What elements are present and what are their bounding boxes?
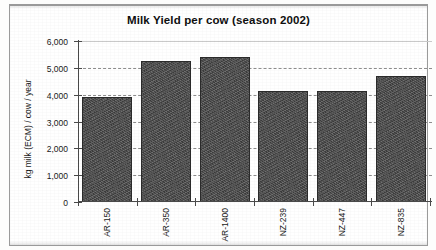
y-axis-tick: 5,000 (74, 68, 82, 69)
x-axis-label: AR-350 (161, 208, 171, 237)
bar-slot (195, 41, 254, 202)
y-axis-tick: 3,000 (74, 122, 82, 123)
y-axis-tick-label: 4,000 (47, 91, 68, 101)
y-axis-tick-label: 0 (63, 198, 68, 208)
bar-slot (313, 41, 372, 202)
x-axis-label-slot: NZ-835 (371, 206, 430, 250)
x-axis-tick (313, 198, 314, 206)
chart-title: Milk Yield per cow (season 2002) (10, 14, 427, 26)
x-axis-label: AR-1400 (220, 208, 230, 242)
y-axis-tick-label: 1,000 (47, 171, 68, 181)
bar-slot (371, 41, 430, 202)
scan-edge-top (10, 6, 427, 9)
plot-area: 01,0002,0003,0004,0005,0006,000 (78, 41, 430, 202)
bar-slot (78, 41, 137, 202)
bars-group (78, 41, 430, 202)
x-axis-tick (254, 198, 255, 206)
x-axis-label: NZ-835 (396, 208, 406, 236)
x-axis-label-slot: AR-350 (137, 206, 196, 250)
x-axis-tick (371, 198, 372, 206)
bar (82, 97, 132, 202)
bar (141, 61, 191, 202)
bar (258, 91, 308, 202)
x-axis-label-slot: AR-1400 (195, 206, 254, 250)
y-axis-title: kg milk (ECM) / cow / year (23, 49, 33, 209)
y-axis-tick-label: 2,000 (47, 144, 68, 154)
x-axis-tick (430, 198, 431, 206)
bar (317, 91, 367, 202)
y-axis-tick: 4,000 (74, 95, 82, 96)
y-axis-tick: 6,000 (74, 41, 82, 42)
chart-figure: Milk Yield per cow (season 2002) kg milk… (0, 0, 436, 250)
y-axis-tick-label: 3,000 (47, 118, 68, 128)
bar-slot (254, 41, 313, 202)
scan-page-frame: Milk Yield per cow (season 2002) kg milk… (9, 4, 428, 246)
bar (376, 76, 426, 202)
bar-slot (137, 41, 196, 202)
bar (200, 57, 250, 202)
y-axis-tick-label: 5,000 (47, 64, 68, 74)
y-axis-tick: 2,000 (74, 148, 82, 149)
x-axis-labels: AR-150AR-350AR-1400NZ-239NZ-447NZ-835 (78, 206, 430, 250)
x-axis-line (78, 201, 432, 202)
x-axis-tick (78, 198, 79, 206)
plot-inner: 01,0002,0003,0004,0005,0006,000 (78, 41, 430, 202)
y-axis-tick-label: 6,000 (47, 37, 68, 47)
x-axis-label: AR-150 (102, 208, 112, 237)
x-axis-label-slot: AR-150 (78, 206, 137, 250)
x-axis-label: NZ-447 (337, 208, 347, 236)
x-axis-label-slot: NZ-447 (313, 206, 372, 250)
x-axis-tick (195, 198, 196, 206)
x-axis-label-slot: NZ-239 (254, 206, 313, 250)
x-axis-tick (137, 198, 138, 206)
y-axis-tick: 1,000 (74, 175, 82, 176)
x-axis-label: NZ-239 (278, 208, 288, 236)
